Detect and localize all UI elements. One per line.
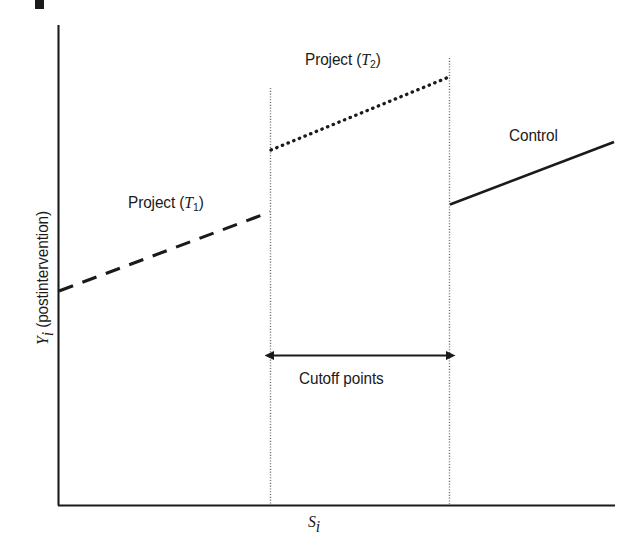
- series-line-project-t1: [59, 212, 270, 291]
- series-label-project-t2: Project (T2): [305, 50, 381, 70]
- y-axis-label: Yi (postintervention): [33, 190, 53, 367]
- y-axis-variable: Y: [33, 336, 52, 345]
- series-label-control: Control: [509, 126, 558, 145]
- chart-canvas: [0, 0, 632, 556]
- figure-container: Project (T1) Project (T2) Control Cutoff…: [0, 0, 632, 556]
- crop-artifact-mark: [35, 0, 44, 9]
- project-t2-prefix: Project (: [305, 50, 361, 68]
- series-line-project-t2: [271, 77, 449, 150]
- cutoff-points-label: Cutoff points: [299, 369, 384, 388]
- project-t2-variable: T: [361, 50, 370, 69]
- project-t1-suffix: ): [199, 193, 204, 211]
- x-axis-subscript: i: [316, 517, 320, 536]
- project-t1-variable: T: [184, 193, 193, 212]
- series-line-control: [450, 142, 614, 205]
- series-label-project-t1: Project (T1): [128, 193, 204, 213]
- x-axis-label: Si: [308, 512, 320, 532]
- y-axis-label-suffix: (postintervention): [33, 211, 51, 332]
- project-t2-suffix: ): [376, 50, 381, 68]
- y-axis-subscript: i: [38, 332, 57, 336]
- project-t1-prefix: Project (: [128, 193, 184, 211]
